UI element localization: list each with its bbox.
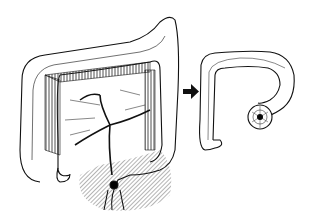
colon-after-illustration (200, 51, 295, 150)
figure-canvas (0, 0, 312, 216)
colon-before-illustration (20, 17, 179, 210)
resection-area (79, 150, 171, 211)
arrow-right-icon (183, 84, 199, 99)
tumor (110, 181, 118, 189)
